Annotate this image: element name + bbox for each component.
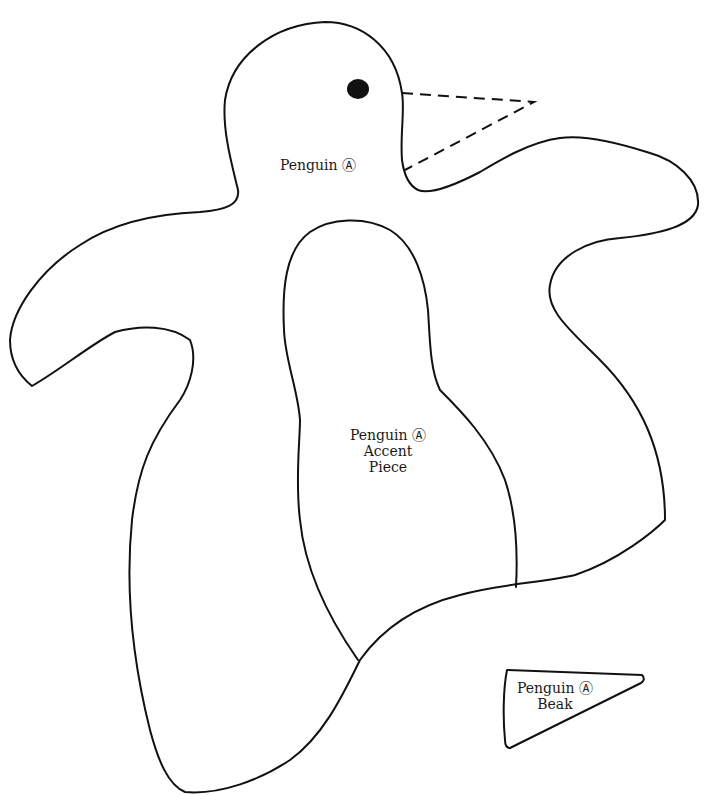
penguin-body-label: Penguin Ⓐ <box>280 157 356 173</box>
label-line: Piece <box>350 459 426 475</box>
pattern-canvas: Penguin Ⓐ Penguin Ⓐ Accent Piece Penguin… <box>0 0 713 795</box>
beak-piece-label: Penguin Ⓐ Beak <box>517 680 593 712</box>
penguin-body-outline <box>10 22 698 792</box>
label-line: Accent <box>350 443 426 459</box>
label-line: Penguin Ⓐ <box>517 680 593 696</box>
label-line: Penguin Ⓐ <box>350 427 426 443</box>
eye-dot <box>347 79 369 99</box>
label-line: Beak <box>517 696 593 712</box>
beak-placement-guide <box>402 93 534 170</box>
pattern-drawing <box>0 0 713 795</box>
label-line: Penguin Ⓐ <box>280 157 356 173</box>
accent-piece-label: Penguin Ⓐ Accent Piece <box>350 427 426 475</box>
